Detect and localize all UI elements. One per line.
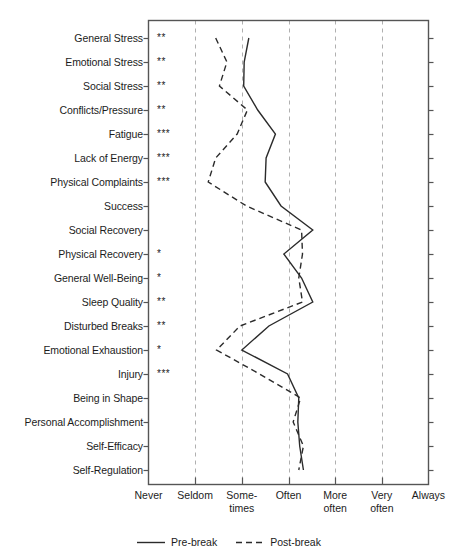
chart-legend: Pre-breakPost-break [0, 530, 457, 554]
legend-label: Pre-break [171, 536, 217, 548]
chart-figure: General StressEmotional StressSocial Str… [0, 0, 457, 558]
legend-entry: Post-break [235, 536, 321, 548]
legend-solid-line-icon [136, 537, 166, 547]
data-series [208, 38, 313, 470]
legend-label: Post-break [270, 536, 321, 548]
x-tick-label: Always [397, 489, 457, 502]
legend-entry: Pre-break [136, 536, 217, 548]
plot-area [0, 0, 457, 558]
plot-border [149, 21, 429, 485]
axis-ticks [144, 39, 434, 485]
gridlines [196, 21, 383, 485]
legend-dashed-line-icon [235, 537, 265, 547]
value-axis-labels: NeverSeldomSome- timesOftenMore oftenVer… [0, 489, 457, 529]
